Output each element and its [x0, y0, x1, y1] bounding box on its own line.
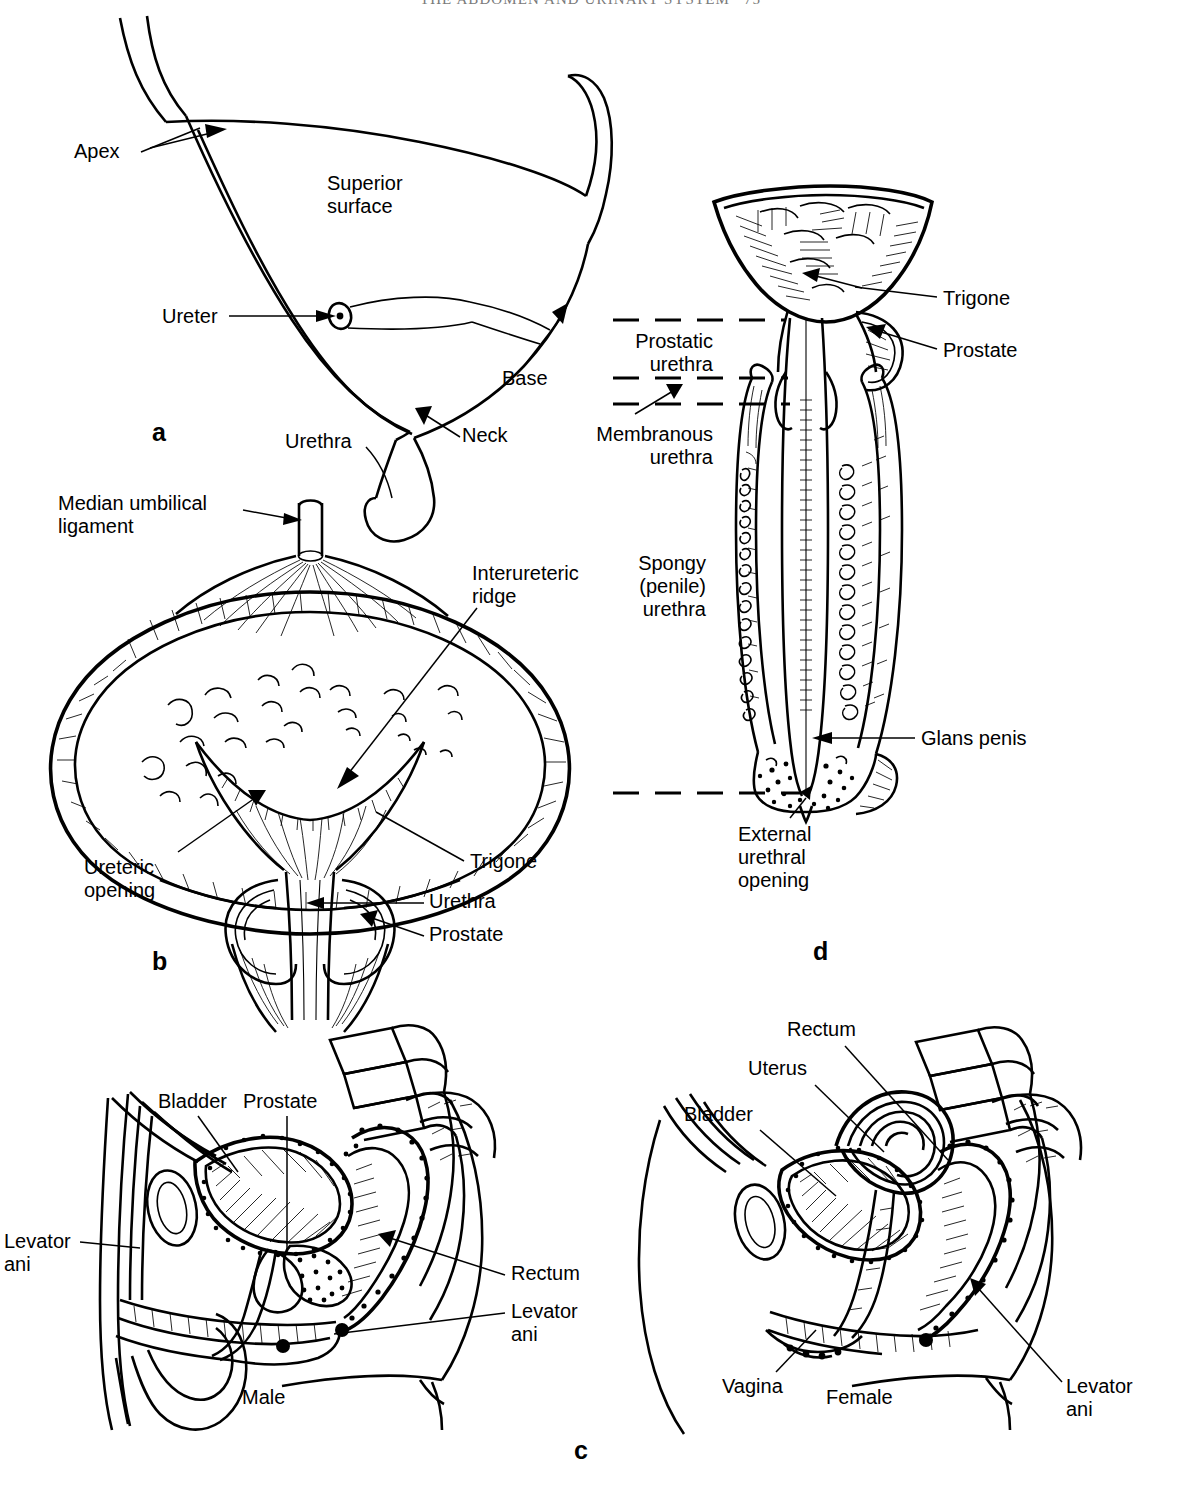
leader-female-levator-ani — [0, 0, 1181, 1488]
figure-page: THE ABDOMEN AND URINARY SYSTEM75 — [0, 0, 1181, 1488]
label-female-sex: Female — [826, 1386, 893, 1409]
panel-letter-c: c — [574, 1436, 588, 1465]
